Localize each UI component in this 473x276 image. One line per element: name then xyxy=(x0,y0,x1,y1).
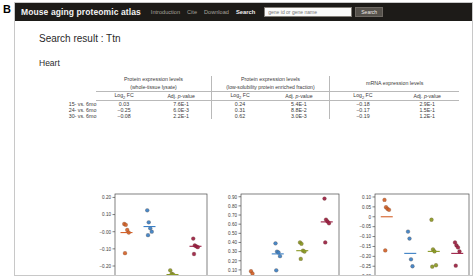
y-axis-tick-label: −0.25 xyxy=(359,264,371,269)
nav-link-search[interactable]: Search xyxy=(236,9,255,15)
data-point xyxy=(146,233,150,237)
col-header-lysate-p: Adj. p-value xyxy=(152,92,211,101)
statistics-table: Protein expression levels (whole-tissue … xyxy=(39,76,459,119)
data-point xyxy=(168,268,172,272)
cell-lysate-p: 2.2E-1 xyxy=(152,113,211,119)
y-axis-tick-label: 0.10 xyxy=(228,268,237,273)
chart-row: 0.200.10−0.00−0.10−0.20−0.306-mo15-mo24-… xyxy=(15,188,473,276)
y-axis-tick-label: 0.60 xyxy=(228,222,237,227)
page-content: Search result : Ttn Heart Protein expres… xyxy=(15,33,472,119)
y-axis-tick-label: 0.80 xyxy=(228,204,237,209)
data-point xyxy=(150,230,154,234)
y-axis-tick-label: −0.20 xyxy=(359,254,371,259)
y-axis-tick-label: 0.90 xyxy=(228,195,237,200)
data-point xyxy=(454,264,458,268)
data-point xyxy=(191,237,195,241)
search-button[interactable]: Search xyxy=(355,7,383,17)
data-point xyxy=(192,252,196,256)
y-axis-tick-label: −0.10 xyxy=(99,247,111,252)
data-point xyxy=(408,237,412,241)
cell-mrna-p: 1.2E-1 xyxy=(395,113,459,119)
scatter-plot-svg: 0.100.050−0.05−0.10−0.15−0.20−0.25−0.30−… xyxy=(349,188,473,276)
group-header-protein-lowsol: Protein expression levels (low-solubilit… xyxy=(211,76,330,92)
y-axis-tick-label: 0.40 xyxy=(228,240,237,245)
nav-link-introduction[interactable]: Introduction xyxy=(151,9,180,15)
cell-mrna-fc: −0.19 xyxy=(330,113,396,119)
group-header-protein-lysate: Protein expression levels (whole-tissue … xyxy=(96,76,211,92)
table-column-header-row: Log2 FC Adj. p-value Log2 FC Adj. p-valu… xyxy=(39,92,459,101)
cell-lowsol-fc: 0.62 xyxy=(211,113,268,119)
col-header-lowsol-p: Adj. p-value xyxy=(268,92,329,101)
nav-link-download[interactable]: Download xyxy=(204,9,229,15)
y-axis-tick-label: 0.50 xyxy=(228,231,237,236)
data-point xyxy=(147,220,151,224)
data-point xyxy=(458,250,462,254)
data-point xyxy=(251,272,255,276)
row-label: 30- vs. 6mo xyxy=(39,113,96,119)
y-axis-tick-label: 0.20 xyxy=(102,195,111,200)
data-point xyxy=(274,241,278,245)
cell-lowsol-p: 3.0E-3 xyxy=(268,113,329,119)
group-header-mrna: mRNA expression levels xyxy=(330,76,459,92)
search-input[interactable] xyxy=(264,7,352,17)
data-point xyxy=(411,264,415,268)
data-point xyxy=(124,223,128,227)
data-point xyxy=(278,254,282,258)
data-point xyxy=(300,242,304,246)
search-form: Search xyxy=(264,7,383,17)
data-point xyxy=(434,263,438,267)
y-axis-tick-label: −0.05 xyxy=(359,224,371,229)
data-point xyxy=(323,197,327,201)
page-title: Search result : Ttn xyxy=(39,33,472,44)
col-header-lysate-fc: Log2 FC xyxy=(96,92,151,101)
chart-protein-low-solubility: 0.900.800.700.600.500.400.300.200.100−0.… xyxy=(215,188,343,276)
nav-link-cite[interactable]: Cite xyxy=(187,9,197,15)
y-axis-tick-label: 0.05 xyxy=(362,205,371,210)
y-axis-tick-label: 0 xyxy=(368,215,371,220)
table-group-header-row: Protein expression levels (whole-tissue … xyxy=(39,76,459,92)
site-brand[interactable]: Mouse aging proteomic atlas xyxy=(21,7,141,17)
y-axis-tick-label: 0.10 xyxy=(362,195,371,200)
y-axis-tick-label: −0.00 xyxy=(99,230,111,235)
y-axis-tick-label: −0.10 xyxy=(359,234,371,239)
navbar: Mouse aging proteomic atlas Introduction… xyxy=(15,3,472,21)
data-point xyxy=(406,230,410,234)
y-axis-tick-label: 0.70 xyxy=(228,213,237,218)
cell-lysate-fc: −0.08 xyxy=(96,113,151,119)
chart-protein-whole-lysate: 0.200.10−0.00−0.10−0.20−0.306-mo15-mo24-… xyxy=(89,188,211,276)
col-header-mrna-fc: Log2 FC xyxy=(330,92,396,101)
panel-letter: B xyxy=(3,3,11,15)
y-axis-tick-label: 0.10 xyxy=(102,212,111,217)
data-point xyxy=(323,241,327,245)
col-header-lowsol-fc: Log2 FC xyxy=(211,92,268,101)
scatter-plot-svg: 0.200.10−0.00−0.10−0.20−0.306-mo15-mo24-… xyxy=(89,188,211,276)
data-point xyxy=(456,246,460,250)
data-point xyxy=(409,257,413,261)
data-point xyxy=(383,198,387,202)
data-point xyxy=(430,218,434,222)
y-axis-tick-label: −0.20 xyxy=(99,264,111,269)
y-axis-tick-label: 0.30 xyxy=(228,249,237,254)
tissue-heading: Heart xyxy=(39,58,472,68)
data-point xyxy=(145,208,149,212)
data-point xyxy=(430,265,434,269)
y-axis-tick-label: −0.15 xyxy=(359,244,371,249)
data-point xyxy=(274,268,278,272)
scatter-plot-svg: 0.900.800.700.600.500.400.300.200.100−0.… xyxy=(215,188,343,276)
data-point xyxy=(299,257,303,261)
table-row: 30- vs. 6mo −0.08 2.2E-1 0.62 3.0E-3 −0.… xyxy=(39,113,459,119)
y-axis-tick-label: 0.20 xyxy=(228,259,237,264)
chart-mrna: 0.100.050−0.05−0.10−0.15−0.20−0.25−0.30−… xyxy=(349,188,473,276)
data-point xyxy=(123,251,127,255)
data-point xyxy=(387,208,391,212)
data-point xyxy=(383,249,387,253)
app-window: Mouse aging proteomic atlas Introduction… xyxy=(14,2,473,276)
col-header-mrna-p: Adj. p-value xyxy=(395,92,459,101)
